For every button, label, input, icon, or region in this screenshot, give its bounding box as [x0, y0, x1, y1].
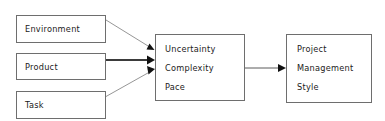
center-node[interactable]: Uncertainty Complexity Pace — [156, 35, 245, 101]
arrowhead-icon — [278, 64, 286, 72]
diagram-canvas: Environment Product Task Uncertainty Com… — [0, 0, 385, 121]
diagram-svg: Environment Product Task Uncertainty Com… — [0, 0, 385, 121]
product-node[interactable]: Product — [17, 54, 106, 80]
output-line-3: Style — [297, 82, 319, 92]
center-to-output-arrow — [245, 64, 286, 72]
environment-label: Environment — [25, 24, 81, 34]
output-line-1: Project — [297, 44, 327, 54]
task-node[interactable]: Task — [17, 92, 106, 119]
arrowhead-icon — [147, 44, 155, 51]
task-to-center-arrow — [106, 66, 155, 97]
product-label: Product — [25, 62, 58, 72]
product-to-center-arrow — [106, 56, 155, 65]
center-line-2: Complexity — [165, 63, 214, 73]
environment-node[interactable]: Environment — [17, 16, 106, 43]
center-line-1: Uncertainty — [165, 44, 216, 54]
output-line-2: Management — [297, 63, 354, 73]
environment-to-center-arrow — [106, 20, 155, 50]
task-label: Task — [24, 100, 44, 110]
center-line-3: Pace — [165, 82, 185, 92]
output-node[interactable]: Project Management Style — [287, 35, 372, 103]
arrowhead-icon — [147, 56, 155, 65]
